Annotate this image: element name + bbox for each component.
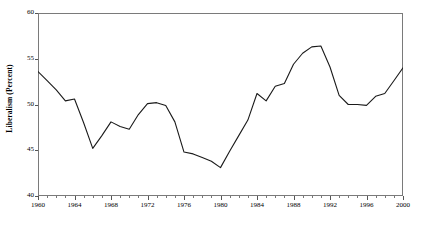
x-tick-label: 1980 (205, 202, 237, 209)
x-minor-tick-mark (266, 196, 267, 198)
x-minor-tick-mark (157, 196, 158, 198)
x-minor-tick-mark (275, 196, 276, 198)
x-minor-tick-mark (248, 196, 249, 198)
x-tick-label: 1996 (351, 202, 383, 209)
x-tick-mark (184, 196, 185, 200)
plot-svg (38, 13, 403, 196)
x-minor-tick-mark (93, 196, 94, 198)
x-minor-tick-mark (230, 196, 231, 198)
x-minor-tick-mark (193, 196, 194, 198)
x-minor-tick-mark (166, 196, 167, 198)
x-minor-tick-mark (184, 196, 185, 198)
x-minor-tick-mark (120, 196, 121, 198)
x-minor-tick-mark (202, 196, 203, 198)
x-minor-tick-mark (339, 196, 340, 198)
x-minor-tick-mark (330, 196, 331, 198)
x-tick-mark (330, 196, 331, 200)
x-minor-tick-mark (394, 196, 395, 198)
x-tick-label: 1964 (59, 202, 91, 209)
x-tick-label: 2000 (387, 202, 419, 209)
x-minor-tick-mark (211, 196, 212, 198)
x-minor-tick-mark (284, 196, 285, 198)
x-minor-tick-mark (348, 196, 349, 198)
x-tick-mark (75, 196, 76, 200)
x-tick-label: 1984 (241, 202, 273, 209)
x-minor-tick-mark (312, 196, 313, 198)
x-tick-label: 1988 (278, 202, 310, 209)
x-tick-label: 1976 (168, 202, 200, 209)
x-tick-label: 1960 (22, 202, 54, 209)
x-minor-tick-mark (47, 196, 48, 198)
x-tick-mark (294, 196, 295, 200)
x-minor-tick-mark (357, 196, 358, 198)
x-minor-tick-mark (175, 196, 176, 198)
chart-figure: Liberalism (Percent) 4045505560 19601964… (0, 0, 425, 233)
y-tick-mark (35, 196, 38, 197)
x-minor-tick-mark (294, 196, 295, 198)
x-tick-label: 1972 (132, 202, 164, 209)
x-minor-tick-mark (148, 196, 149, 198)
x-minor-tick-mark (403, 196, 404, 198)
x-minor-tick-mark (65, 196, 66, 198)
x-minor-tick-mark (321, 196, 322, 198)
x-minor-tick-mark (129, 196, 130, 198)
x-tick-mark (38, 196, 39, 200)
liberalism-series-line (38, 46, 403, 168)
y-axis-title-wrapper: Liberalism (Percent) (0, 0, 18, 196)
x-minor-tick-mark (111, 196, 112, 198)
x-tick-label: 1992 (314, 202, 346, 209)
x-minor-tick-mark (102, 196, 103, 198)
x-tick-label: 1968 (95, 202, 127, 209)
x-minor-tick-mark (376, 196, 377, 198)
x-minor-tick-mark (303, 196, 304, 198)
x-tick-mark (221, 196, 222, 200)
x-tick-mark (148, 196, 149, 200)
y-axis-title: Liberalism (Percent) (5, 64, 14, 132)
x-minor-tick-mark (56, 196, 57, 198)
x-minor-tick-mark (239, 196, 240, 198)
x-minor-tick-mark (385, 196, 386, 198)
x-tick-mark (403, 196, 404, 200)
x-minor-tick-mark (221, 196, 222, 198)
x-minor-tick-mark (75, 196, 76, 198)
x-tick-mark (111, 196, 112, 200)
x-tick-mark (367, 196, 368, 200)
x-tick-mark (257, 196, 258, 200)
x-minor-tick-mark (138, 196, 139, 198)
x-minor-tick-mark (38, 196, 39, 198)
x-minor-tick-mark (257, 196, 258, 198)
x-minor-tick-mark (84, 196, 85, 198)
x-minor-tick-mark (367, 196, 368, 198)
